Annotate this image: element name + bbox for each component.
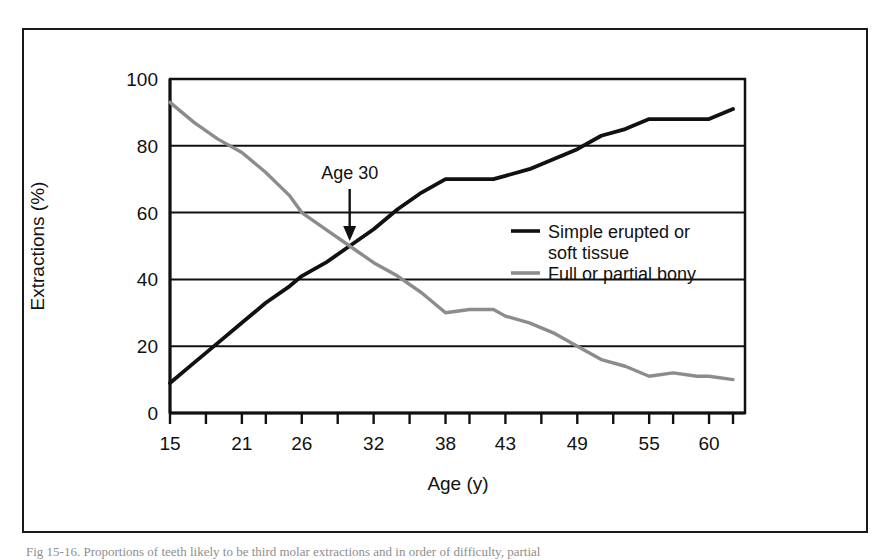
x-tick-label-43: 43 xyxy=(495,433,516,454)
legend-label-full-partial-bony: Full or partial bony xyxy=(548,264,696,284)
figure-caption: Fig 15-16. Proportions of teeth likely t… xyxy=(26,544,866,560)
y-tick-label-80: 80 xyxy=(137,136,158,157)
figure-root: 020406080100 152126323843495560 Age 30 S… xyxy=(0,0,884,560)
y-axis: 020406080100 xyxy=(126,69,170,424)
x-tick-label-49: 49 xyxy=(567,433,588,454)
x-tick-label-38: 38 xyxy=(435,433,456,454)
legend-label-simple-erupted-line2: soft tissue xyxy=(548,243,629,263)
y-tick-label-20: 20 xyxy=(137,336,158,357)
x-tick-label-32: 32 xyxy=(363,433,384,454)
legend-label-simple-erupted-line1: Simple erupted or xyxy=(548,222,690,242)
x-tick-label-55: 55 xyxy=(639,433,660,454)
x-axis: 152126323843495560 xyxy=(159,413,745,454)
chart-canvas: 020406080100 152126323843495560 Age 30 S… xyxy=(0,0,884,560)
x-tick-label-60: 60 xyxy=(698,433,719,454)
y-tick-label-0: 0 xyxy=(147,403,158,424)
x-tick-label-15: 15 xyxy=(159,433,180,454)
y-tick-label-100: 100 xyxy=(126,69,158,90)
x-tick-label-21: 21 xyxy=(231,433,252,454)
line-chart: 020406080100 152126323843495560 Age 30 S… xyxy=(0,0,884,560)
annotation-label: Age 30 xyxy=(321,163,378,183)
y-tick-label-60: 60 xyxy=(137,203,158,224)
x-tick-label-26: 26 xyxy=(291,433,312,454)
y-tick-label-40: 40 xyxy=(137,269,158,290)
y-axis-title: Extractions (%) xyxy=(27,182,48,311)
plot-area-border xyxy=(170,79,745,413)
x-axis-title: Age (y) xyxy=(427,473,488,494)
